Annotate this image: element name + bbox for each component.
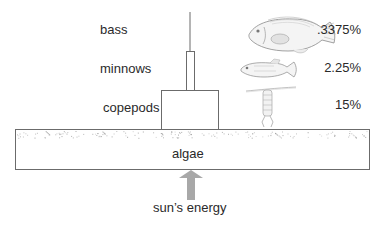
speckle xyxy=(222,132,223,133)
level-label-copepods: copepods xyxy=(103,100,159,116)
speckle xyxy=(112,136,113,137)
speckle xyxy=(276,133,277,134)
speckle xyxy=(100,136,101,137)
speckle xyxy=(27,135,28,136)
speckle xyxy=(114,134,115,135)
speckle xyxy=(326,134,327,135)
speckle xyxy=(290,136,291,137)
speckle xyxy=(77,137,78,138)
speckle xyxy=(348,137,349,138)
speckle xyxy=(35,138,36,139)
speckle xyxy=(35,134,36,135)
speckle xyxy=(356,137,357,138)
speckle xyxy=(288,134,289,135)
speckle xyxy=(256,136,257,137)
speckle xyxy=(63,133,64,134)
speckle xyxy=(262,136,263,137)
speckle xyxy=(192,137,193,138)
speckle xyxy=(135,135,136,136)
speckle xyxy=(71,136,72,137)
level-label-bass: bass xyxy=(100,22,127,38)
speckle xyxy=(20,134,21,135)
speckle xyxy=(162,134,163,135)
speckle xyxy=(161,136,162,137)
speckle xyxy=(367,131,368,132)
speckle xyxy=(270,135,271,136)
speckle xyxy=(203,135,204,136)
speckle xyxy=(59,134,60,135)
speckle xyxy=(349,135,350,136)
speckle xyxy=(252,138,253,139)
speckle xyxy=(175,134,176,135)
speckle xyxy=(247,132,248,133)
speckle xyxy=(364,136,365,137)
speckle xyxy=(175,132,176,133)
speckle xyxy=(156,137,157,138)
level-label-minnows: minnows xyxy=(100,61,151,77)
speckle xyxy=(354,135,355,136)
base-label-algae: algae xyxy=(172,146,204,162)
speckle xyxy=(331,133,332,134)
speckle xyxy=(123,131,124,132)
speckle xyxy=(214,136,215,137)
copepods-bar xyxy=(162,91,219,130)
speckle xyxy=(209,133,210,134)
energy-source-label: sun’s energy xyxy=(153,200,226,216)
speckle xyxy=(181,132,182,133)
speckle xyxy=(92,134,93,135)
speckle xyxy=(106,135,107,136)
speckle xyxy=(362,134,363,135)
speckle xyxy=(217,137,218,138)
speckle xyxy=(76,131,77,132)
speckle xyxy=(190,131,191,132)
speckle xyxy=(20,136,21,137)
speckle xyxy=(17,134,18,135)
speckle xyxy=(308,137,309,138)
speckle xyxy=(293,137,294,138)
speckle xyxy=(280,137,281,138)
speckle xyxy=(213,134,214,135)
speckle xyxy=(283,135,284,136)
speckle xyxy=(296,133,297,134)
speckle xyxy=(252,134,253,135)
speckle xyxy=(138,133,139,134)
speckle xyxy=(45,138,46,139)
speckle xyxy=(67,134,68,135)
speckle xyxy=(224,133,225,134)
speckle xyxy=(178,135,179,136)
speckle xyxy=(272,132,273,133)
speckle xyxy=(191,134,192,135)
speckle xyxy=(62,136,63,137)
speckle xyxy=(246,132,247,133)
speckle xyxy=(350,131,351,132)
speckle xyxy=(319,134,320,135)
speckle xyxy=(248,137,249,138)
speckle xyxy=(271,133,272,134)
speckle xyxy=(96,135,97,136)
speckle xyxy=(56,133,57,134)
speckle xyxy=(125,133,126,134)
speckle xyxy=(216,133,217,134)
percent-minnows: 2.25% xyxy=(281,60,361,76)
speckle xyxy=(349,133,350,134)
speckle xyxy=(254,132,255,133)
speckle xyxy=(279,136,280,137)
speckle xyxy=(64,131,65,132)
speckle xyxy=(65,132,66,133)
speckle xyxy=(235,132,236,133)
speckle xyxy=(127,137,128,138)
speckle xyxy=(163,137,164,138)
speckle xyxy=(125,135,126,136)
speckle xyxy=(189,133,190,134)
speckle xyxy=(59,133,60,134)
speckle xyxy=(328,133,329,134)
speckle xyxy=(321,136,322,137)
speckle xyxy=(277,135,278,136)
speckle xyxy=(104,133,105,134)
speckle xyxy=(18,135,19,136)
speckle xyxy=(189,135,190,136)
speckle xyxy=(248,134,249,135)
minnows-bar xyxy=(187,52,195,91)
speckle xyxy=(172,137,173,138)
speckle xyxy=(67,132,68,133)
